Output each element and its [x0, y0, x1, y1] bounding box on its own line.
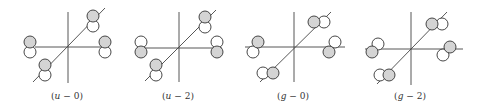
shaded-lobe: [366, 46, 378, 58]
panel-label: (g − 2): [394, 91, 426, 101]
panel-g-0: (g − 0): [245, 12, 345, 101]
shaded-lobe: [252, 36, 264, 48]
shaded-lobe: [444, 41, 456, 53]
panel-label: (u − 2): [162, 91, 194, 101]
orbital-upper-right: [87, 10, 99, 32]
shaded-lobe: [135, 46, 147, 58]
panel-u-2: (u − 2): [135, 10, 223, 101]
panel-label: (u − 0): [51, 91, 83, 101]
orbital-upper-right: [199, 11, 211, 33]
shaded-lobe: [24, 36, 36, 48]
orbital-symmetry-figure: (u − 0) (u − 2) (g − 0) (g − 2): [0, 0, 487, 110]
shaded-lobe: [150, 59, 162, 71]
orbital-right: [437, 41, 456, 61]
orbital-left: [247, 36, 264, 58]
orbital-lower-left: [150, 59, 162, 81]
orbital-left: [135, 36, 147, 58]
shaded-lobe: [211, 46, 223, 58]
shaded-lobe: [308, 16, 320, 28]
panel-u-0: (u − 0): [24, 8, 111, 101]
shaded-lobe: [99, 36, 111, 48]
shaded-lobe: [267, 67, 279, 79]
panel-label: (g − 0): [277, 91, 309, 101]
shaded-lobe: [426, 18, 438, 30]
shaded-lobe: [383, 69, 395, 81]
orbital-lower-left: [39, 59, 51, 81]
orbital-lower-left: [257, 67, 279, 79]
shaded-lobe: [199, 11, 211, 23]
panel-g-2: (g − 2): [365, 12, 463, 101]
orbital-right: [211, 36, 223, 58]
orbital-left: [24, 36, 36, 58]
orbital-upper-right: [308, 16, 330, 28]
shaded-lobe: [323, 46, 335, 58]
orbital-left: [366, 38, 384, 58]
shaded-lobe: [39, 59, 51, 71]
shaded-lobe: [87, 10, 99, 22]
orbital-upper-right: [426, 18, 448, 30]
orbital-right: [323, 36, 341, 58]
orbital-lower-left: [374, 69, 395, 81]
